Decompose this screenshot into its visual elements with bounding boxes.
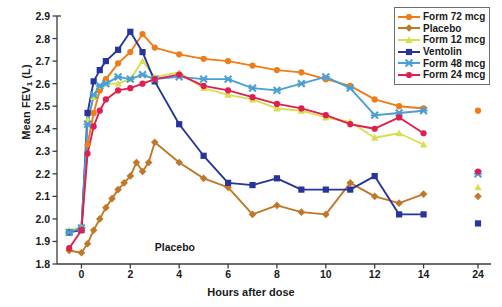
marker-square [396, 211, 402, 217]
marker-diamond [420, 190, 428, 198]
data-point-marker [249, 85, 257, 92]
x-tick-label: 4 [166, 268, 192, 280]
marker-square [115, 47, 121, 53]
legend-marker-circle-icon [403, 11, 415, 23]
marker-circle [420, 130, 426, 136]
marker-circle [347, 121, 353, 127]
data-point-marker [103, 96, 109, 102]
legend-item-form-24-mcg[interactable]: Form 24 mcg [398, 69, 485, 81]
series-polyline [69, 142, 423, 252]
data-point-marker [84, 141, 90, 147]
series-markers-4 [65, 71, 482, 236]
data-point-marker [84, 150, 90, 156]
data-point-marker [90, 226, 98, 234]
data-point-marker [139, 81, 145, 87]
legend-swatch [398, 46, 420, 57]
y-tick-label: 2.4 [24, 123, 50, 135]
y-tick-label: 2.2 [24, 168, 50, 180]
marker-circle [97, 108, 103, 114]
x-tick-label-24: 24 [465, 268, 491, 280]
data-point-marker [372, 96, 378, 102]
data-point-marker [274, 101, 280, 107]
data-point-marker [273, 202, 281, 210]
data-point-marker [200, 76, 208, 83]
data-point-marker [91, 110, 97, 116]
data-point-marker [405, 36, 412, 43]
marker-circle [66, 245, 72, 251]
marker-circle [139, 81, 145, 87]
y-tick-label: 2.8 [24, 33, 50, 45]
data-point-marker [225, 180, 231, 186]
legend-marker-cross-icon [403, 57, 415, 69]
data-point-marker [347, 187, 353, 193]
marker-diamond [96, 215, 104, 223]
data-point-marker [396, 211, 402, 217]
marker-circle [249, 63, 255, 69]
marker-circle [396, 114, 402, 120]
data-point-marker [249, 63, 255, 69]
marker-circle [372, 126, 378, 132]
marker-circle [78, 227, 84, 233]
marker-square [139, 49, 145, 55]
data-point-marker [475, 168, 481, 174]
marker-diamond [371, 193, 379, 201]
data-point-marker [114, 73, 122, 80]
legend-item-form-72-mcg[interactable]: Form 72 mcg [398, 11, 485, 23]
marker-square [274, 175, 280, 181]
data-point-marker [298, 105, 304, 111]
marker-circle [274, 67, 280, 73]
marker-circle [139, 31, 145, 37]
legend-item-form-48-mcg[interactable]: Form 48 mcg [398, 57, 485, 69]
data-point-marker [406, 72, 412, 78]
data-point-marker [372, 126, 378, 132]
data-point-marker [139, 71, 147, 78]
legend-item-ventolin[interactable]: Ventolin [398, 46, 485, 58]
data-point-marker [420, 211, 426, 217]
legend-marker-diamond-icon [403, 22, 415, 34]
data-point-marker [103, 58, 109, 64]
data-point-marker [474, 184, 481, 191]
marker-circle [475, 108, 481, 114]
data-point-marker [78, 227, 84, 233]
x-tick-label: 0 [68, 268, 94, 280]
marker-diamond [395, 199, 403, 207]
plot-annotation-label: Placebo [155, 241, 195, 253]
marker-circle [396, 103, 402, 109]
legend-swatch [398, 23, 420, 34]
data-point-marker [405, 60, 413, 67]
data-point-marker [225, 58, 231, 64]
data-point-marker [406, 48, 412, 54]
marker-square [176, 121, 182, 127]
x-axis-title: Hours after dose [0, 286, 502, 298]
legend-item-label: Placebo [420, 23, 461, 34]
series-line-1 [69, 142, 423, 252]
data-point-marker [347, 121, 353, 127]
series-line-5 [69, 75, 423, 249]
data-point-marker [249, 182, 255, 188]
marker-square [420, 211, 426, 217]
legend-item-placebo[interactable]: Placebo [398, 23, 485, 35]
legend-item-label: Form 24 mcg [420, 69, 485, 80]
legend-item-form-12-mcg[interactable]: Form 12 mcg [398, 34, 485, 46]
y-tick-label: 1.9 [24, 235, 50, 247]
series-polyline [69, 34, 423, 232]
data-point-marker [127, 49, 133, 55]
x-tick-label: 6 [215, 268, 241, 280]
series-polyline [69, 32, 423, 233]
legend-item-label: Form 48 mcg [420, 58, 485, 69]
data-point-marker [139, 49, 145, 55]
marker-circle [298, 69, 304, 75]
legend-item-label: Form 12 mcg [420, 34, 485, 45]
marker-circle [475, 168, 481, 174]
marker-circle [127, 49, 133, 55]
x-tick-label: 2 [117, 268, 143, 280]
data-point-marker [96, 215, 104, 223]
marker-circle [201, 56, 207, 62]
data-point-marker [115, 47, 121, 53]
data-point-marker [97, 67, 103, 73]
marker-circle [372, 96, 378, 102]
marker-square [225, 180, 231, 186]
series-polyline [69, 75, 423, 249]
data-point-marker [273, 87, 281, 94]
marker-triangle [474, 184, 481, 191]
